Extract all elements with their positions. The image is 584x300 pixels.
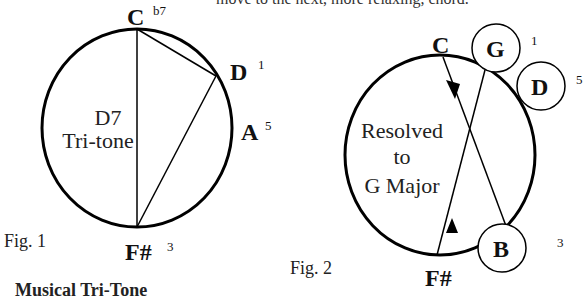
- fig2-center-label-line3: G Major: [354, 175, 450, 197]
- fig2-arrow-up-icon: [446, 218, 458, 233]
- fig2-center-label-line2: to: [360, 146, 444, 168]
- fig2-degree-d: 5: [576, 73, 583, 86]
- fig1-center-label-line2: Tri-tone: [58, 130, 138, 152]
- fig1-note-d: D: [230, 60, 247, 84]
- fig2-note-fsharp: F#: [425, 266, 452, 290]
- fig2-note-d: D: [531, 75, 548, 99]
- fig1-c-d-line: [137, 29, 216, 76]
- fig1-caption: Fig. 1: [4, 232, 46, 250]
- fig2-caption: Fig. 2: [290, 259, 332, 277]
- fig1-degree-fsharp: 3: [167, 240, 174, 253]
- fig2-degree-b: 3: [557, 236, 564, 249]
- fig1-note-c: C: [127, 5, 144, 29]
- header-partial-text: move to the next, more relaxing, chord.: [216, 0, 469, 7]
- fig1-degree-d: 1: [258, 58, 265, 71]
- fig2-center-label-line1: Resolved: [360, 120, 444, 142]
- fig1-center-label-line1: D7: [78, 107, 138, 129]
- fig2-degree-g: 1: [531, 34, 538, 47]
- fig1-degree-a: 5: [265, 119, 272, 132]
- fig2-note-b: B: [493, 237, 509, 261]
- fig2-note-g: G: [486, 37, 505, 61]
- fig1-d-fsharp-line: [137, 76, 216, 227]
- footer-partial-text: Musical Tri-Tone: [15, 281, 147, 299]
- fig2-note-c: C: [432, 33, 449, 57]
- fig1-note-fsharp: F#: [125, 240, 152, 264]
- fig2-fsharp-to-g-line: [437, 70, 485, 255]
- fig1-note-a: A: [241, 120, 258, 144]
- fig1-degree-c: b7: [153, 4, 166, 17]
